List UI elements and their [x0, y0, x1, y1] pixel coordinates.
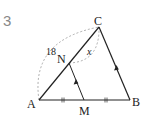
geometry-problem: 3 A B C M N 18 x [0, 0, 149, 122]
label-c: C [94, 14, 102, 28]
parallel-arrow-bc [114, 65, 119, 71]
side-bc [99, 27, 130, 100]
label-a: A [27, 97, 36, 111]
triangle-diagram: A B C M N 18 x [0, 0, 149, 122]
label-m: M [79, 104, 90, 118]
unknown-label-x: x [86, 46, 92, 57]
label-b: B [132, 95, 140, 109]
length-label-18: 18 [46, 46, 56, 57]
label-n: N [57, 52, 66, 66]
